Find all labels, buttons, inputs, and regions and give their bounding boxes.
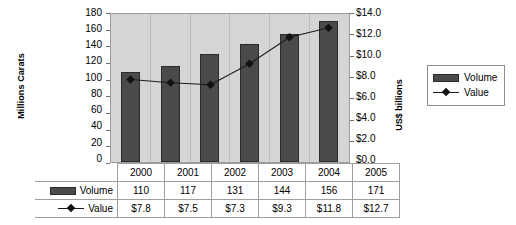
legend-item-volume: Volume <box>433 70 499 85</box>
table-key-value-label: Value <box>88 203 113 214</box>
right-tick-6: $6.0 <box>356 92 375 102</box>
value-marker-2004 <box>285 33 293 41</box>
right-axis-title: US$ billions <box>392 55 406 155</box>
line-marker-swatch-icon <box>58 204 84 213</box>
left-tick-100: 100 <box>85 73 102 83</box>
table-key-volume-label: Volume <box>80 185 113 196</box>
right-tick-8: $8.0 <box>356 71 375 81</box>
table-cell-volume-2005: 171 <box>353 182 400 200</box>
value-marker-2003 <box>245 59 253 67</box>
right-tick-14: $14.0 <box>356 8 381 18</box>
right-tick-4: $4.0 <box>356 113 375 123</box>
table-header-2000: 2000 <box>118 164 165 182</box>
table-cell-volume-2001: 117 <box>165 182 212 200</box>
value-marker-2002 <box>206 81 214 89</box>
table-header-2001: 2001 <box>165 164 212 182</box>
table-cell-volume-2000: 110 <box>118 182 165 200</box>
table-cell-volume-2004: 156 <box>306 182 353 200</box>
table-key-volume: Volume <box>35 182 118 200</box>
right-tick-10: $10.0 <box>356 50 381 60</box>
chart-container: Millions Carats US$ billions 180 160 140… <box>0 0 516 225</box>
table-header-2003: 2003 <box>259 164 306 182</box>
legend-line-marker-swatch-icon <box>433 88 459 97</box>
table-header-2004: 2004 <box>306 164 353 182</box>
right-tick-2: $2.0 <box>356 134 375 144</box>
data-table: 2000 2001 2002 2003 2004 2005 Volume 110… <box>35 163 400 218</box>
table-cell-value-2002: $7.3 <box>212 200 259 218</box>
left-tick-80: 80 <box>91 89 102 99</box>
right-tick-12: $12.0 <box>356 29 381 39</box>
table-cell-value-2004: $11.8 <box>306 200 353 218</box>
legend-label-value: Value <box>464 87 489 99</box>
table-key-value: Value <box>35 200 118 218</box>
chart-legend: Volume Value <box>427 65 505 106</box>
plot-inner <box>111 14 349 162</box>
value-line-series <box>111 14 349 162</box>
table-cell-value-2000: $7.8 <box>118 200 165 218</box>
left-axis-title-text: Millions Carats <box>16 53 26 119</box>
table-header-2005: 2005 <box>353 164 400 182</box>
left-tick-160: 160 <box>85 24 102 34</box>
value-marker-2005 <box>324 23 332 31</box>
bar-swatch-icon <box>50 187 76 195</box>
left-tick-140: 140 <box>85 40 102 50</box>
left-tick-120: 120 <box>85 56 102 66</box>
table-cell-volume-2002: 131 <box>212 182 259 200</box>
table-cell-value-2005: $12.7 <box>353 200 400 218</box>
table-header-2002: 2002 <box>212 164 259 182</box>
table-row-value: Value $7.8 $7.5 $7.3 $9.3 $11.8 $12.7 <box>35 200 400 218</box>
value-marker-2000 <box>126 75 134 83</box>
legend-label-volume: Volume <box>464 72 497 84</box>
right-axis-title-text: US$ billions <box>394 79 404 131</box>
table-cell-value-2001: $7.5 <box>165 200 212 218</box>
table-cell-volume-2003: 144 <box>259 182 306 200</box>
left-axis-ticklabels: 180 160 140 120 100 80 60 40 20 0 <box>60 8 106 163</box>
legend-item-value: Value <box>433 85 499 100</box>
legend-bar-swatch-icon <box>433 74 459 82</box>
table-row-categories: 2000 2001 2002 2003 2004 2005 <box>35 164 400 182</box>
table-row-volume: Volume 110 117 131 144 156 171 <box>35 182 400 200</box>
table-corner-cell <box>35 164 118 182</box>
right-axis-ticklabels: $14.0 $12.0 $10.0 $8.0 $6.0 $4.0 $2.0 $0… <box>352 8 392 163</box>
left-tick-40: 40 <box>91 121 102 131</box>
left-axis-title: Millions Carats <box>14 34 28 138</box>
value-line-path <box>131 28 329 85</box>
value-marker-2001 <box>166 78 174 86</box>
left-tick-60: 60 <box>91 105 102 115</box>
plot-area <box>110 13 350 163</box>
left-tick-180: 180 <box>85 8 102 18</box>
value-line-markers <box>126 23 332 89</box>
table-cell-value-2003: $9.3 <box>259 200 306 218</box>
left-tick-20: 20 <box>91 138 102 148</box>
